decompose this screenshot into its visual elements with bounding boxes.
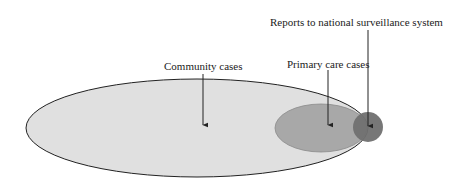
primary-label: Primary care cases: [287, 58, 369, 70]
community-label: Community cases: [164, 60, 243, 72]
surveillance-pyramid-diagram: Community cases Primary care cases Repor…: [0, 0, 460, 181]
reports-label: Reports to national surveillance system: [270, 16, 443, 28]
